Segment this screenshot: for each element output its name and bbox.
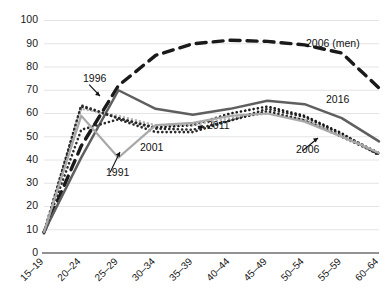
x-tick-label: 35–39: [167, 255, 195, 283]
x-tick-label: 20–24: [55, 255, 83, 283]
y-tick-label: 10: [26, 223, 38, 235]
y-tick-label: 20: [26, 199, 38, 211]
series-annotation-group: 1996199120012011200620162006 (men): [83, 37, 360, 178]
x-tick-label: 60–64: [353, 255, 381, 283]
y-tick-label: 50: [26, 130, 38, 142]
x-tick-label: 15–19: [18, 255, 46, 283]
series-line-1991: [44, 114, 379, 233]
annotation-label: 1991: [106, 166, 130, 178]
annotation-label: 2006: [296, 143, 320, 155]
annotation-label: 1996: [83, 72, 107, 84]
x-tick-label: 30–34: [130, 255, 158, 283]
x-tick-label: 55–59: [316, 255, 344, 283]
x-tick-label: 45–49: [241, 255, 269, 283]
y-tick-label: 60: [26, 106, 38, 118]
annotation-label: 2006 (men): [306, 37, 360, 49]
y-tick-label: 80: [26, 60, 38, 72]
x-tick-label: 40–44: [204, 255, 232, 283]
x-tick-label: 25–29: [92, 255, 120, 283]
line-chart: 0102030405060708090100 15–1920–2425–2930…: [0, 0, 386, 288]
y-axis-tick-labels: 0102030405060708090100: [20, 13, 38, 258]
x-axis-tick-labels: 15–1920–2425–2930–3435–3940–4445–4950–54…: [18, 255, 381, 283]
annotation-label: 2001: [140, 141, 164, 153]
y-tick-label: 40: [26, 153, 38, 165]
x-tick-label: 50–54: [279, 255, 307, 283]
y-tick-label: 30: [26, 176, 38, 188]
y-tick-label: 70: [26, 83, 38, 95]
annotation-label: 2011: [207, 119, 230, 131]
y-tick-label: 100: [20, 13, 38, 25]
annotation-label: 2016: [326, 93, 350, 105]
chart-canvas: 0102030405060708090100 15–1920–2425–2930…: [0, 0, 386, 288]
y-tick-label: 90: [26, 37, 38, 49]
